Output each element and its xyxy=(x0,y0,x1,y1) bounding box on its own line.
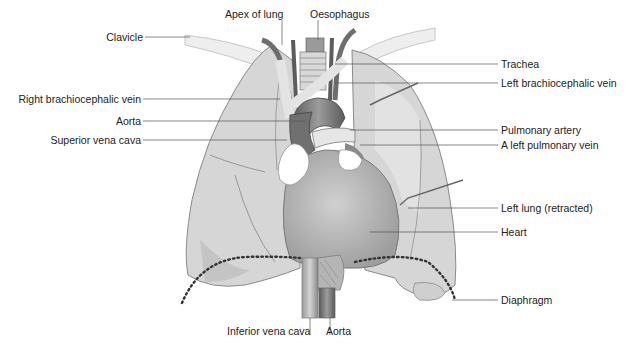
label-left-lung-retracted: Left lung (retracted) xyxy=(501,202,593,214)
label-superior-vena-cava: Superior vena cava xyxy=(51,134,141,146)
label-diaphragm: Diaphragm xyxy=(501,294,552,306)
label-aorta-upper: Aorta xyxy=(116,115,141,127)
label-clavicle: Clavicle xyxy=(106,31,143,43)
label-inferior-vena-cava: Inferior vena cava xyxy=(227,325,310,337)
label-aorta-lower: Aorta xyxy=(326,325,351,337)
label-right-brachiocephalic-vein: Right brachiocephalic vein xyxy=(18,93,141,105)
label-pulmonary-artery: Pulmonary artery xyxy=(501,124,581,136)
label-apex-of-lung: Apex of lung xyxy=(225,8,283,20)
label-left-pulmonary-vein: A left pulmonary vein xyxy=(501,139,598,151)
label-oesophagus: Oesophagus xyxy=(310,8,370,20)
lower-vessels xyxy=(302,255,344,318)
label-trachea: Trachea xyxy=(501,58,539,70)
label-left-brachiocephalic-vein: Left brachiocephalic vein xyxy=(501,77,617,89)
label-heart: Heart xyxy=(501,226,527,238)
